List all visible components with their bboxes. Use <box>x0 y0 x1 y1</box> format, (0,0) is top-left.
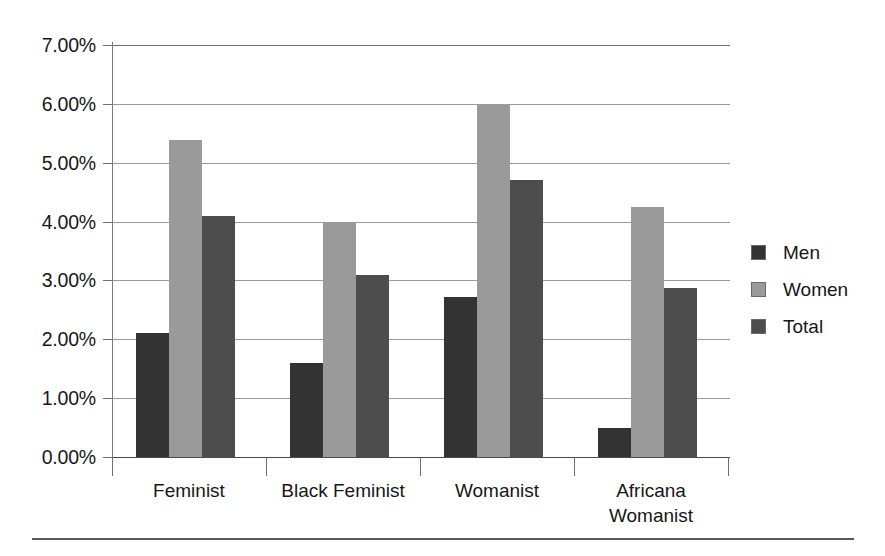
y-tick-mark <box>103 163 112 164</box>
bar-group-womanist <box>420 45 574 457</box>
bottom-divider <box>32 538 854 540</box>
y-tick-mark <box>103 280 112 281</box>
bar-chart-figure: 7.00% 6.00% 5.00% 4.00% 3.00% 2.00% 1.00… <box>0 0 885 556</box>
y-tick-mark <box>103 398 112 399</box>
y-tick-label: 0.00% <box>10 446 96 469</box>
bar-men[interactable] <box>598 428 631 457</box>
legend-item-men[interactable]: Men <box>751 234 881 271</box>
x-category-label-black-feminist: Black Feminist <box>266 478 420 503</box>
y-tick-mark <box>103 104 112 105</box>
y-tick-label: 2.00% <box>10 328 96 351</box>
y-tick-label: 7.00% <box>10 34 96 57</box>
legend-swatch-icon <box>751 245 766 260</box>
bar-women[interactable] <box>323 222 356 457</box>
x-tick-mark <box>266 457 267 476</box>
bar-group-africana-womanist <box>574 45 728 457</box>
legend-swatch-icon <box>751 319 766 334</box>
bar-women[interactable] <box>631 207 664 457</box>
bar-group-black-feminist <box>266 45 420 457</box>
y-tick-mark <box>103 457 112 458</box>
legend-item-women[interactable]: Women <box>751 271 881 308</box>
x-tick-mark <box>728 457 729 476</box>
bar-women[interactable] <box>169 140 202 457</box>
bar-group-feminist <box>112 45 266 457</box>
x-tick-mark <box>574 457 575 476</box>
x-axis-line <box>112 457 730 458</box>
legend-label: Men <box>783 242 820 264</box>
y-tick-mark <box>103 339 112 340</box>
plot-area <box>112 45 730 457</box>
legend-item-total[interactable]: Total <box>751 308 881 345</box>
x-tick-mark <box>420 457 421 476</box>
legend-swatch-icon <box>751 282 766 297</box>
y-tick-label: 3.00% <box>10 269 96 292</box>
bar-women[interactable] <box>477 104 510 457</box>
x-category-label-africana-womanist: Africana Womanist <box>574 478 728 528</box>
x-category-label-womanist: Womanist <box>420 478 574 503</box>
y-tick-label: 5.00% <box>10 152 96 175</box>
legend-label: Total <box>783 316 823 338</box>
x-category-label-feminist: Feminist <box>112 478 266 503</box>
y-tick-label: 1.00% <box>10 387 96 410</box>
y-tick-mark <box>103 222 112 223</box>
x-tick-mark <box>112 457 113 476</box>
y-tick-mark <box>103 45 112 46</box>
bar-men[interactable] <box>136 333 169 457</box>
bar-total[interactable] <box>510 180 543 457</box>
bar-total[interactable] <box>202 216 235 457</box>
bar-total[interactable] <box>356 275 389 457</box>
y-tick-label: 4.00% <box>10 211 96 234</box>
y-tick-label: 6.00% <box>10 93 96 116</box>
bar-men[interactable] <box>444 297 477 457</box>
bar-men[interactable] <box>290 363 323 457</box>
chart-legend: Men Women Total <box>751 234 881 345</box>
bar-total[interactable] <box>664 288 697 458</box>
legend-label: Women <box>783 279 848 301</box>
